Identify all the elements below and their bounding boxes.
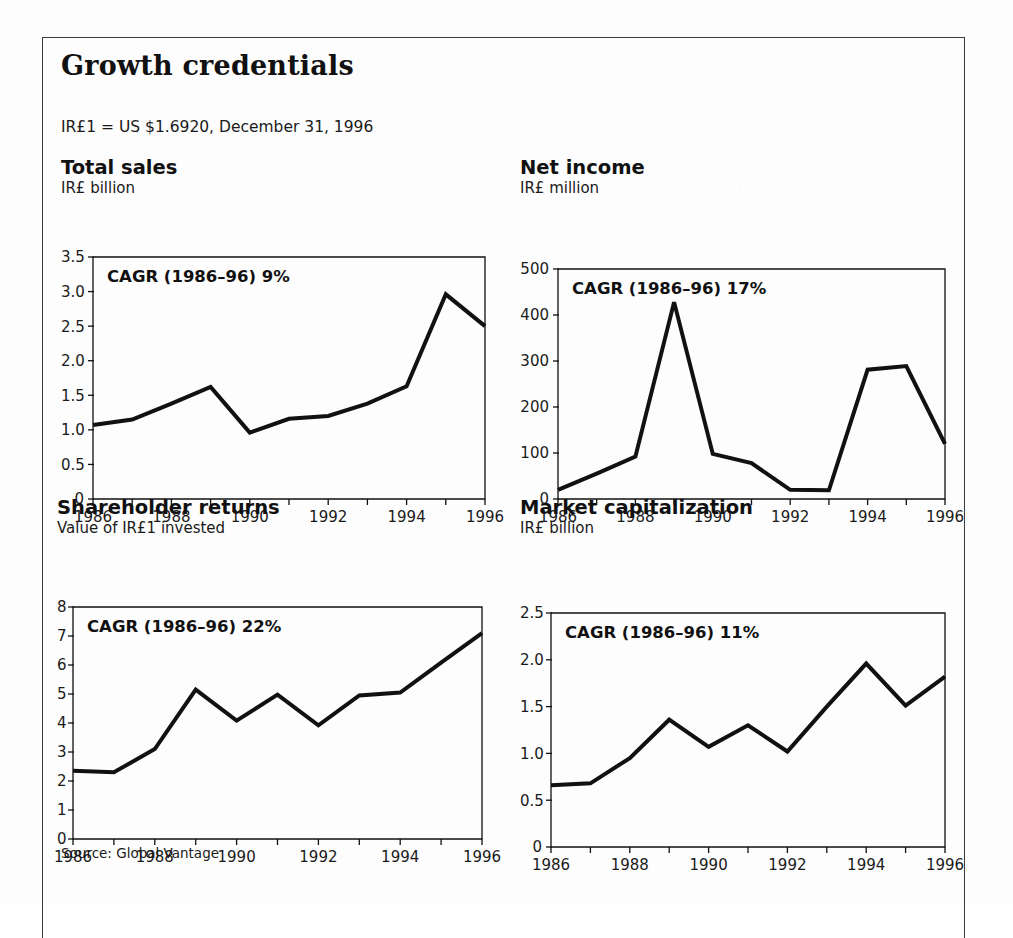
chart-title-market-capitalization: Market capitalization	[520, 498, 971, 518]
y-tick-label: 3.0	[61, 283, 84, 301]
x-tick-label: 1996	[926, 856, 964, 874]
cagr-annotation: CAGR (1986–96) 11%	[565, 623, 759, 642]
chart-panel-total-sales: Total salesIR£ billion00.51.01.52.02.53.…	[61, 158, 511, 529]
y-tick-label: 1.5	[61, 387, 84, 405]
x-tick-label: 1994	[847, 856, 885, 874]
y-tick-label: 300	[520, 352, 549, 370]
y-tick-label: 1	[57, 801, 64, 819]
y-tick-label: 1.0	[520, 745, 542, 763]
data-series-line	[551, 664, 945, 786]
y-tick-label: 2.0	[520, 651, 542, 669]
x-tick-label: 1996	[463, 848, 501, 866]
y-tick-label: 4	[57, 714, 64, 732]
y-tick-label: 2.0	[61, 352, 84, 370]
y-tick-label: 0.5	[61, 456, 84, 474]
cagr-annotation: CAGR (1986–96) 22%	[87, 617, 281, 636]
chart-subtitle-total-sales: IR£ billion	[61, 179, 511, 197]
chart-title-total-sales: Total sales	[61, 158, 511, 178]
cagr-annotation: CAGR (1986–96) 9%	[107, 267, 290, 286]
y-tick-label: 6	[57, 656, 64, 674]
data-series-line	[558, 303, 945, 491]
y-tick-label: 5	[57, 685, 64, 703]
y-tick-label: 1.0	[61, 421, 84, 439]
chart-subtitle-shareholder-returns: Value of IR£1 invested	[57, 519, 508, 537]
y-tick-label: 3	[57, 743, 64, 761]
y-tick-label: 100	[520, 444, 549, 462]
y-tick-label: 400	[520, 306, 549, 324]
chart-panel-net-income: Net incomeIR£ million0100200300400500198…	[520, 158, 971, 529]
cagr-annotation: CAGR (1986–96) 17%	[572, 279, 766, 298]
exchange-rate-note: IR£1 = US $1.6920, December 31, 1996	[61, 118, 373, 136]
y-tick-label: 0	[520, 838, 542, 856]
y-tick-label: 8	[57, 598, 64, 616]
plot-area-market-capitalization: 00.51.01.52.02.5198619881990199219941996…	[520, 537, 971, 877]
y-tick-label: 2.5	[61, 318, 84, 336]
plot-area-net-income: 0100200300400500198619881990199219941996…	[520, 197, 971, 529]
chart-svg-total-sales	[61, 197, 511, 529]
y-tick-label: 0.5	[520, 792, 542, 810]
data-series-line	[73, 634, 482, 773]
data-series-line	[93, 295, 485, 433]
y-tick-label: 500	[520, 260, 549, 278]
x-tick-label: 1994	[381, 848, 419, 866]
x-tick-label: 1992	[299, 848, 337, 866]
source-credit: Source: Global Vantage	[61, 845, 219, 861]
x-tick-label: 1988	[611, 856, 649, 874]
y-tick-label: 2	[57, 772, 64, 790]
y-tick-label: 2.5	[520, 604, 542, 622]
y-tick-label: 1.5	[520, 698, 542, 716]
page-title: Growth credentials	[61, 50, 354, 81]
x-tick-label: 1992	[768, 856, 806, 874]
chart-subtitle-market-capitalization: IR£ billion	[520, 519, 971, 537]
x-tick-label: 1990	[690, 856, 728, 874]
chart-svg-net-income	[520, 197, 971, 529]
plot-area-total-sales: 00.51.01.52.02.53.03.5198619881990199219…	[61, 197, 511, 529]
chart-title-net-income: Net income	[520, 158, 971, 178]
chart-svg-market-capitalization	[520, 537, 971, 877]
chart-panel-shareholder-returns: Shareholder returnsValue of IR£1 investe…	[57, 498, 508, 869]
y-tick-label: 7	[57, 627, 64, 645]
chart-panel-market-capitalization: Market capitalizationIR£ billion00.51.01…	[520, 498, 971, 877]
plot-area-shareholder-returns: 012345678198619881990199219941996CAGR (1…	[57, 537, 508, 869]
chart-svg-shareholder-returns	[57, 537, 508, 869]
chart-title-shareholder-returns: Shareholder returns	[57, 498, 508, 518]
x-tick-label: 1990	[218, 848, 256, 866]
x-tick-label: 1986	[532, 856, 570, 874]
y-tick-label: 3.5	[61, 248, 84, 266]
y-tick-label: 200	[520, 398, 549, 416]
chart-subtitle-net-income: IR£ million	[520, 179, 971, 197]
